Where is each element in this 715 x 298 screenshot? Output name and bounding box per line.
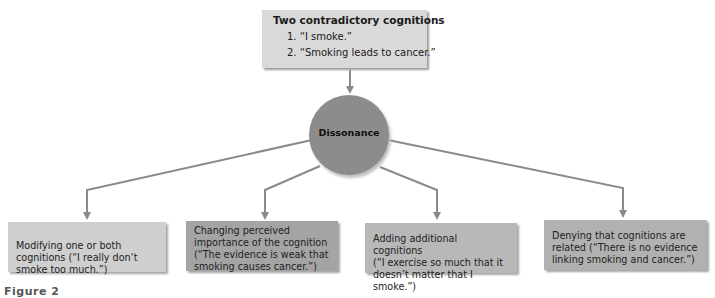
outcome-box-adding-cognitions: Adding additional cognitions (“I exercis… (365, 223, 517, 273)
outcome-line: cognitions (“I really don’t (16, 252, 158, 264)
outcome-line: Changing perceived (194, 225, 330, 237)
contradictory-cognitions-box: Two contradictory cognitions 1. “I smoke… (262, 10, 427, 68)
top-box-title: Two contradictory cognitions (273, 14, 445, 26)
outcome-line: related (“There is no evidence (552, 242, 699, 254)
outcome-line: (“The evidence is weak that (194, 249, 330, 261)
figure-label: Figure 2 (4, 285, 59, 298)
outcome-line: (“I exercise so much that it (373, 257, 509, 269)
cognition-item-2: 2. “Smoking leads to cancer.” (287, 47, 436, 58)
outcome-line: Denying that cognitions are (552, 230, 699, 242)
cognition-item-1: 1. “I smoke.” (287, 31, 352, 42)
outcome-line: smoke too much.”) (16, 264, 158, 276)
dissonance-label: Dissonance (309, 127, 389, 138)
dissonance-node: Dissonance (309, 95, 389, 175)
outcome-line: doesn’t matter that I smoke.”) (373, 269, 509, 293)
outcome-line: importance of the cognition (194, 237, 330, 249)
outcome-line: linking smoking and cancer.”) (552, 254, 699, 266)
outcome-box-changing-importance: Changing perceived importance of the cog… (186, 221, 338, 271)
outcome-line: Modifying one or both (16, 240, 158, 252)
outcome-box-denying: Denying that cognitions are related (“Th… (544, 220, 707, 270)
outcome-line: smoking causes cancer.”) (194, 261, 330, 273)
outcome-line: Adding additional cognitions (373, 233, 509, 257)
outcome-box-modifying: Modifying one or both cognitions (“I rea… (8, 222, 166, 272)
